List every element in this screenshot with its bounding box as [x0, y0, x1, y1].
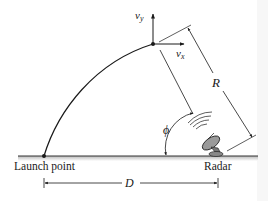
r-extension-bottom	[227, 135, 256, 151]
vx-label: vx	[176, 48, 184, 61]
angle-label: ϕ	[163, 124, 169, 136]
vx-subscript: x	[181, 52, 185, 61]
launch-point-label: Launch point	[14, 161, 75, 173]
vy-label: vy	[135, 10, 143, 23]
radar-waves-icon	[188, 112, 212, 129]
r-extension-top	[159, 25, 191, 42]
range-label: R	[212, 76, 220, 89]
radar-dish-icon	[200, 133, 223, 157]
r-dimension-line-upper	[188, 28, 213, 73]
vy-subscript: y	[140, 14, 144, 23]
phi-angle-arc	[165, 113, 193, 155]
distance-label: D	[125, 177, 134, 189]
r-dimension-line-lower	[223, 91, 252, 137]
radar-label: Radar	[204, 161, 231, 173]
launch-point-marker	[42, 154, 46, 158]
trajectory-curve	[44, 44, 153, 156]
